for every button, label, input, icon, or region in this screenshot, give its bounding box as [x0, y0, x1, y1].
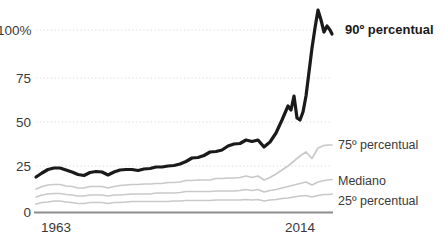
- y-tick-label-25: 25: [0, 160, 31, 174]
- series-line-90th-percentile: [36, 10, 332, 177]
- x-tick-label-end: 2014: [285, 221, 315, 235]
- y-tick-label-100: 100%: [0, 24, 31, 38]
- series-line-75th-percentile: [36, 145, 332, 189]
- series-label-25th-percentile: 25º percentual: [338, 195, 418, 208]
- y-tick-label-0: 0: [0, 206, 31, 220]
- series-label-75th-percentile: 75º percentual: [338, 139, 418, 152]
- chart-container: 100% 75 50 25 0 1963 2014 90º percentual…: [0, 0, 445, 244]
- series-label-90th-percentile: 90º percentual: [345, 23, 434, 36]
- gridlines: [36, 30, 332, 166]
- y-tick-label-50: 50: [0, 116, 31, 130]
- x-tick-label-start: 1963: [41, 221, 71, 235]
- series-label-median: Mediano: [338, 175, 386, 188]
- y-tick-label-75: 75: [0, 72, 31, 86]
